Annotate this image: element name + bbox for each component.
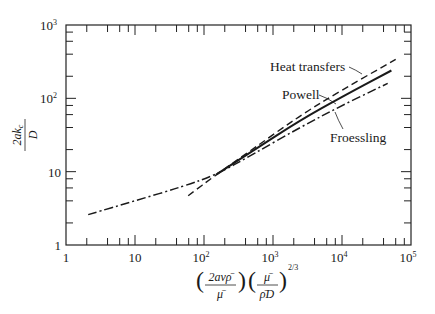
x-tick-1: 1 — [63, 250, 70, 265]
svg-text:2avρ̄: 2avρ̄ — [208, 270, 234, 284]
y-tick-labels: 1 10 102 103 — [40, 18, 61, 253]
mass-transfer-chart: 1 10 102 103 104 105 1 10 102 103 2akc D… — [0, 0, 435, 314]
leader-heat — [349, 67, 362, 74]
curve-froessling — [88, 83, 388, 214]
curve-heat-transfers — [188, 59, 396, 195]
svg-text:D: D — [26, 130, 40, 140]
leader-froessling — [335, 112, 343, 129]
x-axis-label: ( 2avρ̄ μ̄ ) ( μ̄ ρ̄D ) 2/3 — [196, 263, 298, 301]
x-tick-labels: 1 10 102 103 104 105 — [63, 250, 417, 265]
label-heat-transfers: Heat transfers — [270, 59, 345, 74]
y-tick-1: 1 — [55, 238, 62, 253]
x-tick-1000: 103 — [262, 250, 279, 265]
label-powell: Powell — [282, 87, 320, 102]
x-tick-100: 102 — [193, 250, 210, 265]
svg-text:μ̄: μ̄ — [263, 270, 273, 284]
y-tick-1000: 103 — [40, 18, 57, 33]
svg-text:ρ̄D: ρ̄D — [259, 287, 275, 301]
x-tick-100000: 105 — [400, 250, 417, 265]
y-tick-10: 10 — [48, 165, 61, 180]
label-froessling: Froessling — [330, 130, 387, 145]
svg-text:): ) — [238, 267, 246, 293]
x-tick-10: 10 — [129, 250, 142, 265]
y-axis-label: 2akc D — [10, 119, 40, 151]
svg-text:2/3: 2/3 — [288, 263, 298, 272]
svg-text:): ) — [279, 267, 287, 293]
y-tick-100: 102 — [40, 91, 57, 106]
series-annotations: Heat transfers Powell Froessling — [270, 59, 387, 145]
x-tick-10000: 104 — [331, 250, 348, 265]
svg-text:2akc: 2akc — [10, 124, 25, 145]
svg-text:μ̄: μ̄ — [216, 287, 226, 301]
svg-text:(: ( — [248, 267, 256, 293]
svg-text:(: ( — [196, 267, 204, 293]
